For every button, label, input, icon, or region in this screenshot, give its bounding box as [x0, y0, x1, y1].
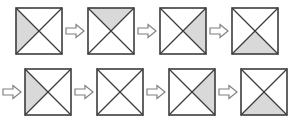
- arrow-outline: [138, 24, 156, 37]
- right-block-arrow-icon: [218, 82, 238, 102]
- square-with-x-none: [96, 68, 144, 116]
- square-with-x-right: [159, 7, 207, 55]
- sequence-figure: [0, 0, 297, 123]
- square-with-x-left: [24, 68, 72, 116]
- arrow-outline: [219, 85, 237, 98]
- arrow-outline: [3, 85, 21, 98]
- square-with-x-top: [87, 7, 135, 55]
- row-leading-spacer: [0, 30, 15, 31]
- arrow-outline: [66, 24, 84, 37]
- square-with-x-bottom: [231, 7, 279, 55]
- arrow-outline: [147, 85, 165, 98]
- right-block-arrow-icon: [209, 21, 229, 41]
- sequence-row-1: [0, 0, 297, 61]
- right-block-arrow-icon: [137, 21, 157, 41]
- square-with-x-left: [15, 7, 63, 55]
- square-with-x-bottom: [240, 68, 288, 116]
- sequence-row-2: [0, 61, 297, 122]
- right-block-arrow-icon: [74, 82, 94, 102]
- square-with-x-right: [168, 68, 216, 116]
- right-block-arrow-icon: [65, 21, 85, 41]
- arrow-outline: [210, 24, 228, 37]
- arrow-outline: [75, 85, 93, 98]
- right-block-arrow-icon: [146, 82, 166, 102]
- right-block-arrow-icon: [2, 82, 22, 102]
